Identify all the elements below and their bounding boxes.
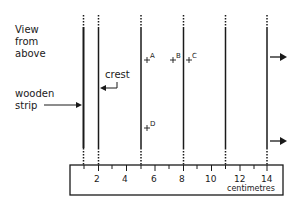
wave-direction-arrow-icon [270,53,287,61]
label-line: wooden [15,88,54,100]
ruler-ticks [84,165,267,171]
label-line: from [15,36,46,48]
point-d-label: D [150,120,155,128]
ruler-unit-label: centimetres [227,184,275,193]
ruler-tick-label: 6 [151,173,157,185]
wave-direction-arrow-icon [270,137,287,145]
ruler-tick-label: 4 [122,173,128,185]
label-line: View [15,24,46,36]
ruler-tick-label: 10 [205,173,216,185]
wave-crest-lines [84,15,268,165]
ruler-tick-label: 2 [94,173,100,185]
wooden-strip-label: wooden strip [15,88,54,112]
label-line: above [15,48,46,60]
crest-label: crest [105,69,130,81]
point-c-label: C [192,52,197,60]
point-b-label: B [176,52,181,60]
point-a-label: A [150,52,155,60]
ruler-tick-label: 8 [179,173,185,185]
view-from-above-label: View from above [15,24,46,60]
crest-arrow-icon [100,82,117,91]
label-line: strip [15,100,54,112]
